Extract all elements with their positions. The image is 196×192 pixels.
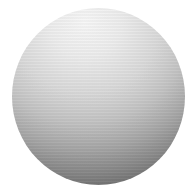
image-canvas bbox=[0, 0, 196, 192]
shaded-sphere bbox=[12, 8, 185, 185]
